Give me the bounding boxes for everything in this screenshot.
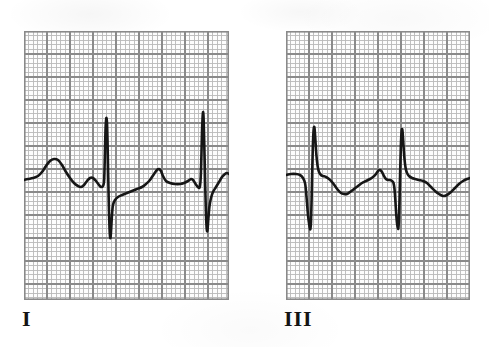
ecg-strip-lead-iii <box>286 31 470 300</box>
lead-label-lead-i: I <box>22 308 32 330</box>
ecg-strip-lead-i <box>24 31 229 300</box>
lead-label-lead-iii: III <box>284 308 313 330</box>
grid-paper-background <box>24 31 229 300</box>
ecg-figure: IIII <box>0 0 489 347</box>
ecg-grid-and-trace <box>286 31 470 300</box>
ecg-grid-and-trace <box>24 31 229 300</box>
